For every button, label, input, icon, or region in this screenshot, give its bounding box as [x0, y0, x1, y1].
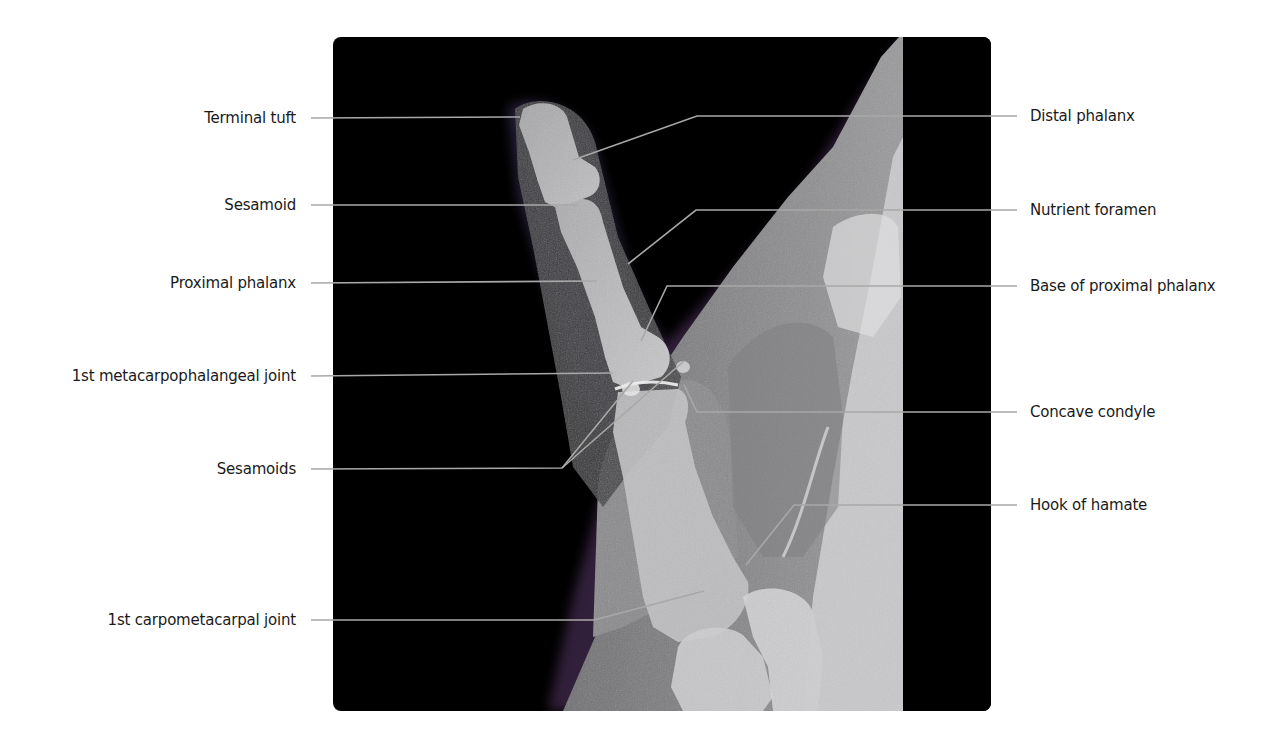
- label-base-of-proximal-phalanx: Base of proximal phalanx: [1030, 277, 1216, 295]
- thumb-xray-figure: Terminal tuft Sesamoid Proximal phalanx …: [0, 0, 1281, 737]
- label-distal-phalanx: Distal phalanx: [1030, 107, 1135, 125]
- label-terminal-tuft: Terminal tuft: [204, 109, 296, 127]
- xray-image: [333, 37, 991, 711]
- xray-illustration: [333, 37, 991, 711]
- label-1st-carpometacarpal-joint: 1st carpometacarpal joint: [108, 611, 296, 629]
- label-hook-of-hamate: Hook of hamate: [1030, 496, 1147, 514]
- label-concave-condyle: Concave condyle: [1030, 403, 1155, 421]
- label-proximal-phalanx: Proximal phalanx: [170, 274, 296, 292]
- label-sesamoids: Sesamoids: [217, 460, 296, 478]
- label-sesamoid: Sesamoid: [224, 196, 296, 214]
- label-nutrient-foramen: Nutrient foramen: [1030, 201, 1156, 219]
- label-1st-metacarpophalangeal-joint: 1st metacarpophalangeal joint: [72, 367, 296, 385]
